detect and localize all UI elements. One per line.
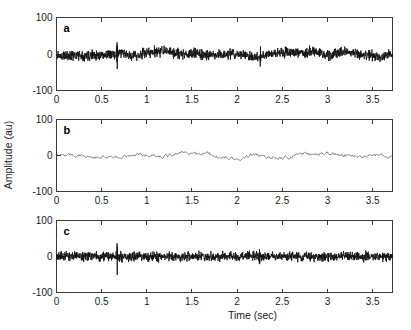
x-tick-label: 0.5 bbox=[95, 94, 109, 105]
x-tick-label: 3.5 bbox=[366, 94, 380, 105]
x-tick-label: 2 bbox=[234, 296, 240, 307]
y-tick-label: 100 bbox=[36, 114, 53, 125]
y-tick-label: -100 bbox=[32, 287, 52, 298]
panel-b: 00.511.522.533.5-1000100b bbox=[32, 114, 392, 206]
x-tick-label: 2.5 bbox=[275, 94, 289, 105]
x-tick-label: 1 bbox=[144, 195, 150, 206]
panel-letter-b: b bbox=[64, 124, 71, 136]
x-tick-label: 3.5 bbox=[366, 296, 380, 307]
signal-trace-a bbox=[57, 42, 393, 69]
figure-container: Amplitude (au)00.511.522.533.5-1000100a0… bbox=[0, 0, 411, 330]
x-tick-label: 2 bbox=[234, 195, 240, 206]
x-tick-label: 1.5 bbox=[185, 195, 199, 206]
y-tick-label: 0 bbox=[47, 251, 53, 262]
x-tick-label: 3.5 bbox=[366, 195, 380, 206]
signal-trace-b bbox=[57, 151, 393, 160]
x-tick-label: 3 bbox=[325, 296, 331, 307]
x-tick-label: 3 bbox=[325, 94, 331, 105]
x-tick-label: 1 bbox=[144, 94, 150, 105]
x-tick-label: 2 bbox=[234, 94, 240, 105]
y-tick-label: 0 bbox=[47, 150, 53, 161]
x-tick-label: 3 bbox=[325, 195, 331, 206]
x-tick-label: 1.5 bbox=[185, 94, 199, 105]
multi-panel-timeseries-figure: Amplitude (au)00.511.522.533.5-1000100a0… bbox=[0, 0, 411, 330]
panel-a: 00.511.522.533.5-1000100a bbox=[32, 12, 392, 105]
x-tick-label: 2.5 bbox=[275, 195, 289, 206]
x-axis-label: Time (sec) bbox=[228, 309, 277, 321]
y-tick-label: -100 bbox=[32, 85, 52, 96]
x-tick-label: 1.5 bbox=[185, 296, 199, 307]
x-tick-label: 0.5 bbox=[95, 195, 109, 206]
x-tick-label: 0 bbox=[54, 296, 60, 307]
x-tick-label: 0.5 bbox=[95, 296, 109, 307]
y-tick-label: 100 bbox=[36, 215, 53, 226]
x-tick-label: 2.5 bbox=[275, 296, 289, 307]
y-tick-label: 0 bbox=[47, 49, 53, 60]
panel-c: 00.511.522.533.5-1000100c bbox=[32, 215, 392, 307]
y-axis-label: Amplitude (au) bbox=[2, 121, 14, 189]
x-tick-label: 0 bbox=[54, 195, 60, 206]
y-tick-label: 100 bbox=[36, 12, 53, 23]
panel-letter-c: c bbox=[64, 225, 70, 237]
signal-trace-c bbox=[57, 243, 393, 275]
x-tick-label: 1 bbox=[144, 296, 150, 307]
panel-letter-a: a bbox=[64, 22, 71, 34]
y-tick-label: -100 bbox=[32, 186, 52, 197]
x-tick-label: 0 bbox=[54, 94, 60, 105]
